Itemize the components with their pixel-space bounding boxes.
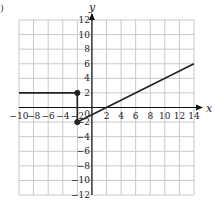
x-tick-label: −10 [10,111,29,121]
x-tick-label: 10 [159,111,171,121]
y-tick-label: −4 [77,132,91,142]
y-tick-label: 2 [84,88,90,98]
x-tick-label: 4 [118,111,124,121]
y-tick-label: 6 [84,59,90,69]
x-tick-label: −6 [42,111,56,121]
filled-endpoint-dot [75,90,80,95]
y-tick-label: 12 [78,15,89,25]
x-tick-label: 12 [174,111,185,121]
y-tick-label: −6 [77,146,91,156]
piecewise-function-graph: xy−10−8−6−4−2246810121412108642−2−4−6−8−… [0,0,215,208]
filled-endpoint-dot [75,119,80,124]
x-tick-label: −8 [27,111,41,121]
x-tick-label: 14 [188,111,200,121]
x-tick-label: 8 [147,111,153,121]
x-tick-label: −4 [56,111,70,121]
x-tick-label: 2 [104,111,110,121]
x-axis-label: x [206,102,213,115]
x-tick-label: 6 [133,111,139,121]
y-tick-label: −10 [71,175,90,185]
y-tick-label: 8 [84,44,90,54]
y-tick-label: −8 [77,161,91,171]
y-tick-label: −12 [71,190,90,200]
y-axis-label: y [88,1,96,14]
y-tick-label: 10 [78,30,90,40]
y-tick-label: 4 [84,73,90,83]
